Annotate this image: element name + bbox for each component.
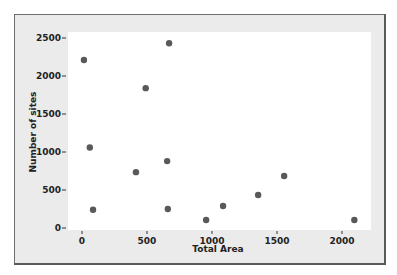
y-tick-label: 1000 — [36, 147, 61, 157]
data-point — [143, 85, 149, 91]
data-point — [351, 217, 357, 223]
y-tick-label: 1500 — [36, 109, 61, 119]
x-tick-label: 0 — [79, 236, 85, 246]
data-point — [90, 207, 96, 213]
y-tick-label: 2000 — [36, 71, 61, 81]
x-tick-label: 1500 — [264, 236, 289, 246]
data-point — [87, 144, 93, 150]
data-point — [220, 203, 226, 209]
x-tick-label: 500 — [138, 236, 157, 246]
data-point — [281, 173, 287, 179]
scatter-chart: 05001000150020002500 0500100015002000 To… — [0, 0, 397, 275]
data-point — [165, 206, 171, 212]
x-axis-title: Total Area — [192, 244, 243, 254]
y-axis-title: Number of sites — [28, 92, 38, 173]
y-tick-label: 0 — [55, 223, 61, 233]
data-point — [133, 169, 139, 175]
data-point — [255, 192, 261, 198]
y-tick-label: 500 — [42, 185, 61, 195]
y-axis: 05001000150020002500 — [36, 33, 66, 233]
data-point — [81, 57, 87, 63]
data-point — [166, 40, 172, 46]
x-tick-label: 2000 — [329, 236, 354, 246]
data-point — [164, 158, 170, 164]
plot-area — [68, 32, 371, 230]
y-tick-label: 2500 — [36, 33, 61, 43]
data-point — [203, 217, 209, 223]
